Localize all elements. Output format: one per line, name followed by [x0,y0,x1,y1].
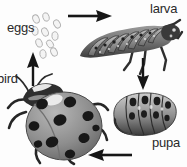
pupa-illustration [106,89,181,141]
arrow-adult-to-eggs [26,52,40,86]
label-eggs: eggs [7,21,34,34]
arrow-eggs-to-larva [68,9,112,23]
label-bird: bird [0,72,18,85]
label-pupa: pupa [152,136,180,149]
life-cycle-diagram: eggs larva bird pupa [0,0,187,167]
arrow-pupa-to-adult [88,148,132,162]
arrow-larva-to-pupa [136,58,150,90]
label-larva: larva [150,2,177,15]
